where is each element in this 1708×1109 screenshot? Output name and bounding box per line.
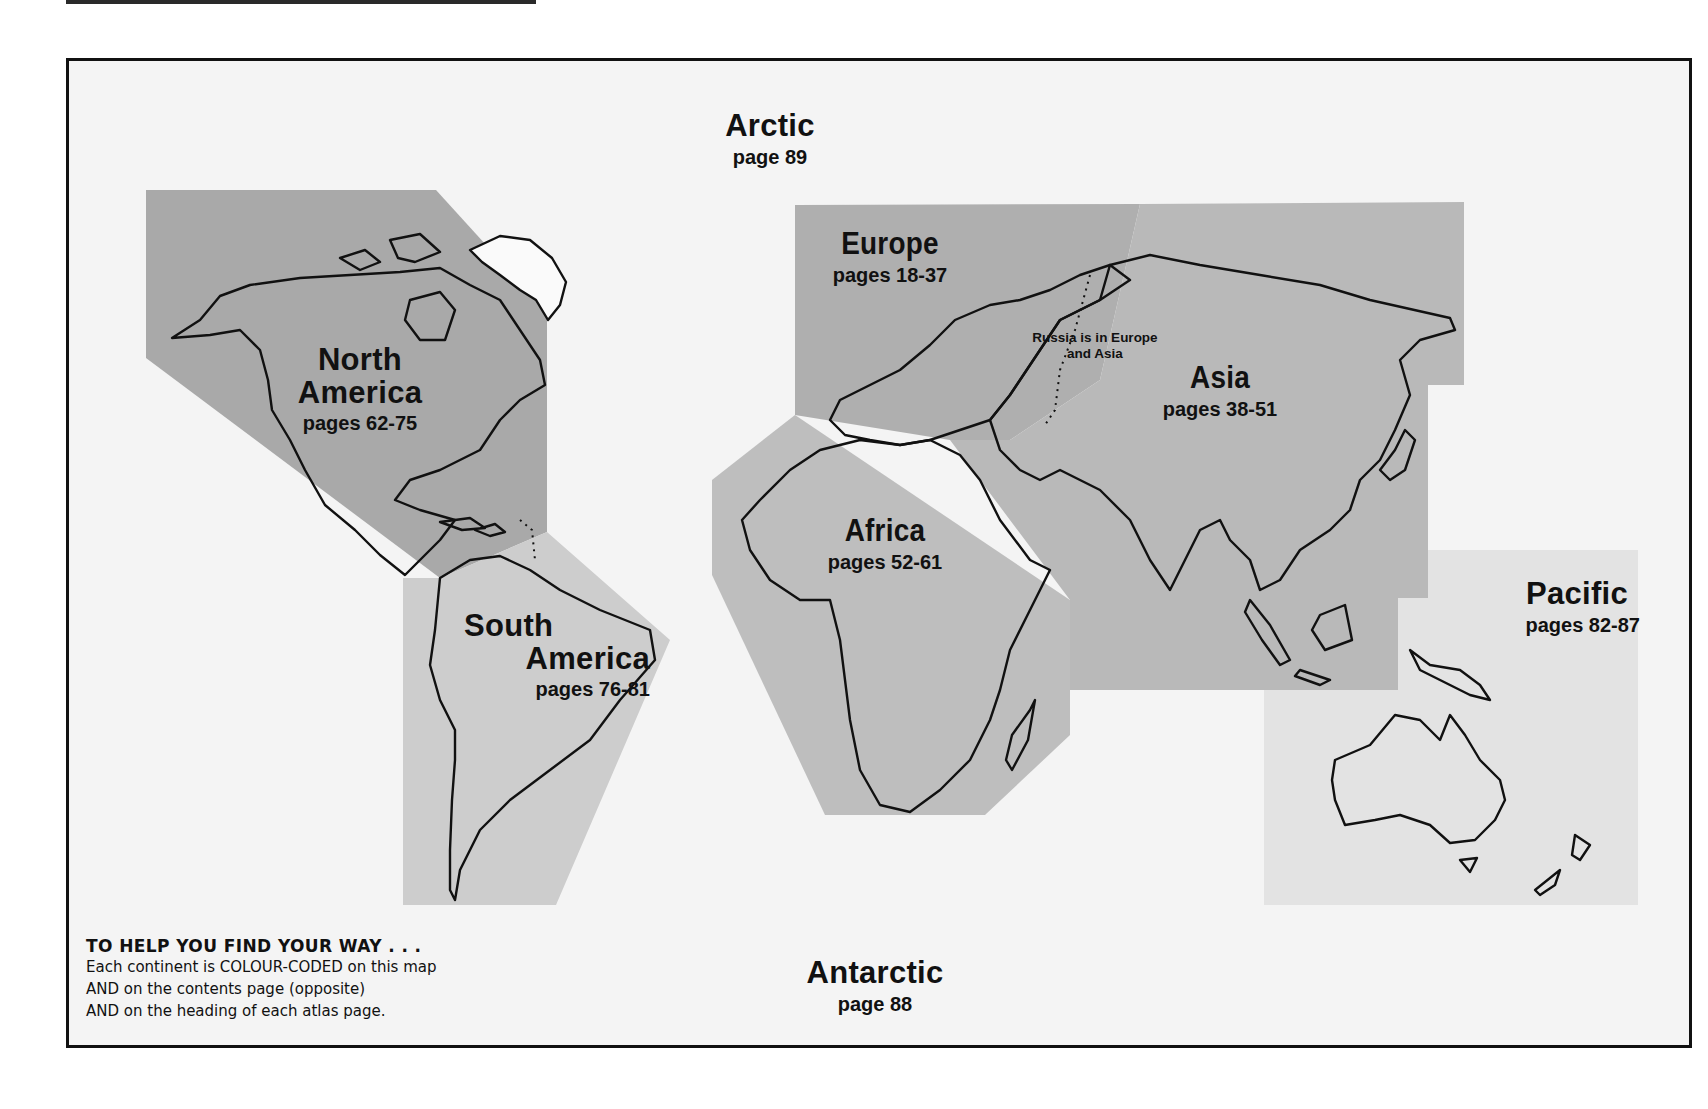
- arctic-pages: page 89: [710, 147, 830, 168]
- russia-note: Russia is in Europe and Asia: [1010, 330, 1180, 362]
- antarctic-name: Antarctic: [790, 957, 960, 990]
- north-america-name-1: North: [270, 344, 450, 377]
- pacific-pages: pages 82-87: [1490, 615, 1640, 636]
- legend-line-1: Each continent is COLOUR-CODED on this m…: [86, 956, 436, 978]
- north-america-name-2: America: [270, 377, 450, 410]
- russia-note-line2: and Asia: [1067, 346, 1123, 361]
- south-america-pages: pages 76-81: [450, 679, 650, 700]
- pacific-name: Pacific: [1490, 578, 1640, 611]
- region-south-america[interactable]: [403, 532, 670, 905]
- legend-heading: TO HELP YOU FIND YOUR WAY . . .: [86, 936, 436, 956]
- label-north-america[interactable]: North America pages 62-75: [270, 344, 450, 434]
- legend-line-3: AND on the heading of each atlas page.: [86, 1000, 436, 1022]
- africa-pages: pages 52-61: [805, 552, 965, 573]
- label-pacific[interactable]: Pacific pages 82-87: [1490, 578, 1640, 636]
- europe-name: Europe: [823, 228, 958, 261]
- label-asia[interactable]: Asia pages 38-51: [1140, 362, 1300, 420]
- russia-note-line1: Russia is in Europe: [1032, 330, 1157, 345]
- label-arctic[interactable]: Arctic page 89: [710, 110, 830, 168]
- antarctic-pages: page 88: [790, 994, 960, 1015]
- label-antarctic[interactable]: Antarctic page 88: [790, 957, 960, 1015]
- label-europe[interactable]: Europe pages 18-37: [815, 228, 965, 286]
- europe-pages: pages 18-37: [815, 265, 965, 286]
- label-africa[interactable]: Africa pages 52-61: [805, 515, 965, 573]
- legend: TO HELP YOU FIND YOUR WAY . . . Each con…: [86, 936, 436, 1022]
- south-america-name-2: America: [450, 643, 650, 676]
- label-south-america[interactable]: South America pages 76-81: [450, 610, 650, 700]
- asia-name: Asia: [1148, 362, 1292, 395]
- asia-pages: pages 38-51: [1140, 399, 1300, 420]
- north-america-pages: pages 62-75: [270, 413, 450, 434]
- arctic-name: Arctic: [710, 110, 830, 143]
- africa-name: Africa: [813, 515, 957, 548]
- south-america-name-1: South: [450, 610, 650, 643]
- legend-line-2: AND on the contents page (opposite): [86, 978, 436, 1000]
